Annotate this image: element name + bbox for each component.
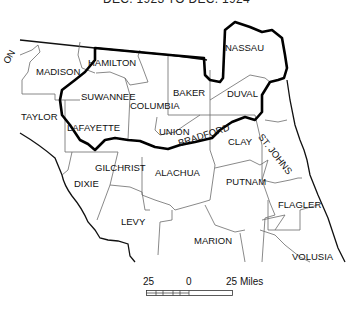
county-label-volusia: VOLUSIA — [292, 252, 333, 262]
county-map — [0, 0, 353, 311]
county-label-alachua: ALACHUA — [155, 168, 200, 178]
county-label-baker: BAKER — [173, 88, 205, 98]
county-label-lafayette: LAFAYETTE — [67, 123, 120, 133]
scale-label-left: 25 — [143, 277, 154, 287]
county-label-taylor: TAYLOR — [21, 112, 58, 122]
atlantic-coastline — [287, 80, 345, 262]
scale-label-zero: 0 — [186, 277, 192, 287]
county-label-hamilton: HAMILTON — [88, 58, 136, 68]
county-label-dixie: DIXIE — [74, 179, 99, 189]
county-label-duval: DUVAL — [227, 89, 258, 99]
county-label-marion: MARION — [194, 236, 232, 246]
county-label-gilchrist: GILCHRIST — [95, 163, 146, 173]
county-label-columbia: COLUMBIA — [130, 101, 180, 111]
county-label-suwannee: SUWANNEE — [81, 92, 136, 102]
county-label-madison: MADISON — [36, 67, 80, 77]
county-label-putnam: PUTNAM — [226, 177, 266, 187]
county-label-flagler: FLAGLER — [278, 200, 321, 210]
county-label-nassau: NASSAU — [225, 43, 264, 53]
county-label-levy: LEVY — [121, 217, 145, 227]
scale-label-right: 25 Miles — [226, 277, 263, 287]
county-label-clay: CLAY — [228, 137, 252, 147]
scale-bar-graphic — [146, 290, 233, 296]
